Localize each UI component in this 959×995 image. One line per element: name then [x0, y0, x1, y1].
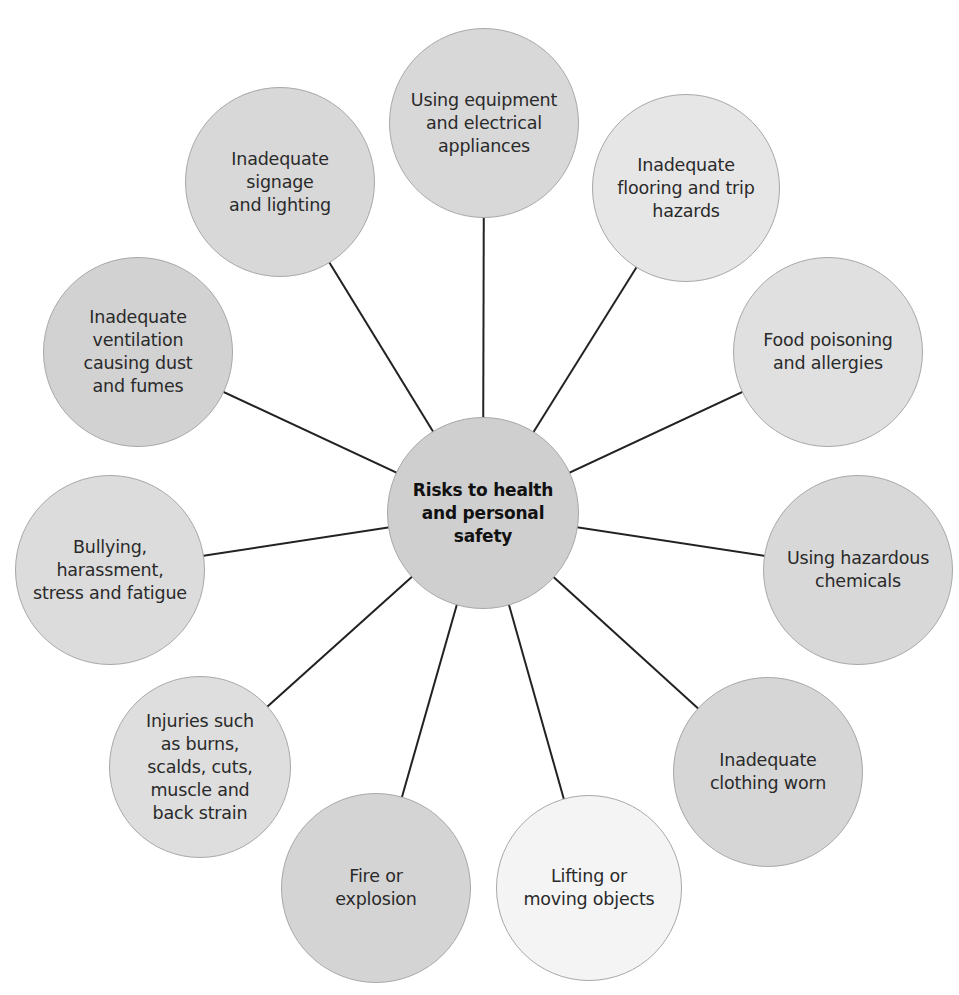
risk-node-label: Inadequate ventilation causing dust and …	[84, 306, 193, 398]
risk-node-label: Inadequate clothing worn	[710, 749, 826, 795]
risk-node-injuries: Injuries such as burns, scalds, cuts, mu…	[109, 676, 291, 858]
risk-node-label: Inadequate flooring and trip hazards	[617, 154, 754, 223]
risk-node-label: Bullying, harassment, stress and fatigue	[33, 536, 187, 605]
risk-node-lifting: Lifting or moving objects	[496, 795, 682, 981]
risk-node-flooring: Inadequate flooring and trip hazards	[592, 94, 780, 282]
risk-node-clothing: Inadequate clothing worn	[673, 677, 863, 867]
risk-node-bullying: Bullying, harassment, stress and fatigue	[15, 475, 205, 665]
risk-node-chemicals: Using hazardous chemicals	[763, 475, 953, 665]
risk-node-fire: Fire or explosion	[281, 793, 471, 983]
risk-node-label: Inadequate signage and lighting	[229, 148, 331, 217]
risk-node-label: Injuries such as burns, scalds, cuts, mu…	[146, 710, 254, 825]
risk-node-food: Food poisoning and allergies	[733, 257, 923, 447]
central-topic-label: Risks to health and personal safety	[413, 479, 553, 548]
risk-mind-map: Using equipment and electrical appliance…	[0, 0, 959, 995]
central-topic-node: Risks to health and personal safety	[387, 417, 579, 609]
risk-node-label: Using equipment and electrical appliance…	[411, 89, 557, 158]
risk-node-ventilation: Inadequate ventilation causing dust and …	[43, 257, 233, 447]
risk-node-label: Food poisoning and allergies	[763, 329, 892, 375]
risk-node-label: Fire or explosion	[335, 865, 416, 911]
risk-node-equipment: Using equipment and electrical appliance…	[389, 28, 579, 218]
risk-node-label: Using hazardous chemicals	[787, 547, 929, 593]
risk-node-signage: Inadequate signage and lighting	[185, 87, 375, 277]
risk-node-label: Lifting or moving objects	[524, 865, 655, 911]
